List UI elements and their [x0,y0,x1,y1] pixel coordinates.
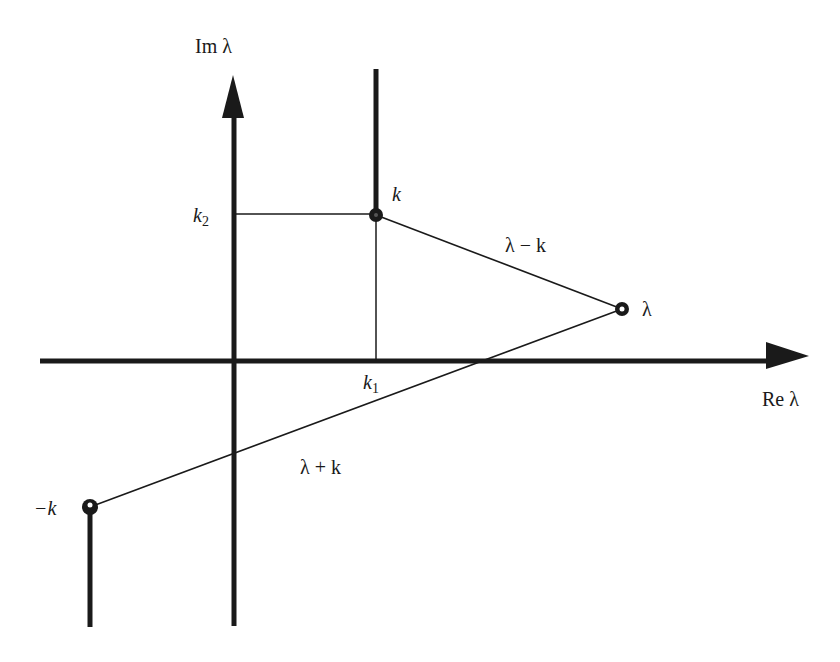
point-lambda [615,302,629,316]
complex-plane-diagram: Im λ Re λ k λ −k k2 k1 λ − k λ + k [0,0,840,662]
k2-subscript: 2 [202,214,209,229]
point-k-label: k [392,184,401,204]
point-lambda-label: λ [642,299,652,319]
diagram-canvas [0,0,840,662]
imag-axis [222,75,244,626]
real-axis-arrowhead-icon [766,342,809,369]
segment-lambda-minus-k [376,215,622,309]
real-axis-label: Re λ [762,389,799,409]
segment-lambda-minus-k-label: λ − k [505,235,546,255]
real-axis [40,342,809,369]
point-k [369,208,383,222]
k1-base: k [363,371,372,393]
k1-label: k1 [363,372,379,396]
point-neg-k-label: −k [34,498,56,518]
point-neg-k [82,499,98,515]
k2-base: k [193,204,202,226]
segment-lambda-plus-k-label: λ + k [300,457,341,477]
imag-axis-label: Im λ [195,36,232,56]
k1-subscript: 1 [372,381,379,396]
segment-lambda-plus-k [90,309,622,507]
k2-label: k2 [193,205,209,229]
imag-axis-arrowhead-icon [222,75,244,118]
